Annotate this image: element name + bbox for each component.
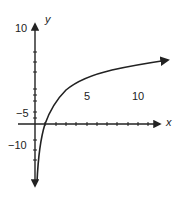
y-axis-label: y: [45, 14, 51, 25]
log-curve: [37, 60, 168, 182]
x-tick-label-10: 10: [132, 91, 144, 102]
y-tick-label-10: 10: [15, 23, 27, 34]
y-tick-label-neg10: −10: [8, 140, 27, 151]
y-tick-label-neg5: −5: [16, 108, 29, 119]
x-tick-label-5: 5: [84, 91, 90, 102]
x-axis-label: x: [166, 117, 172, 128]
